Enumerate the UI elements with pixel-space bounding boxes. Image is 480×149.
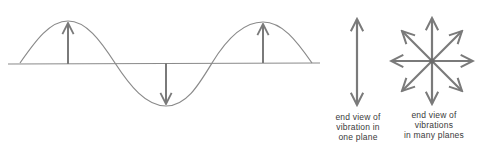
caption-line: one plane (322, 132, 394, 142)
caption-line: vibrations (394, 120, 474, 130)
caption-line: in many planes (394, 130, 474, 140)
wave-axis-line (8, 63, 320, 64)
single-plane-caption: end view of vibration in one plane (322, 112, 394, 142)
caption-line: end view of (322, 112, 394, 122)
many-planes-caption: end view of vibrations in many planes (394, 110, 474, 140)
caption-line: vibration in (322, 122, 394, 132)
caption-line: end view of (394, 110, 474, 120)
many-planes-star-icon (391, 18, 473, 104)
